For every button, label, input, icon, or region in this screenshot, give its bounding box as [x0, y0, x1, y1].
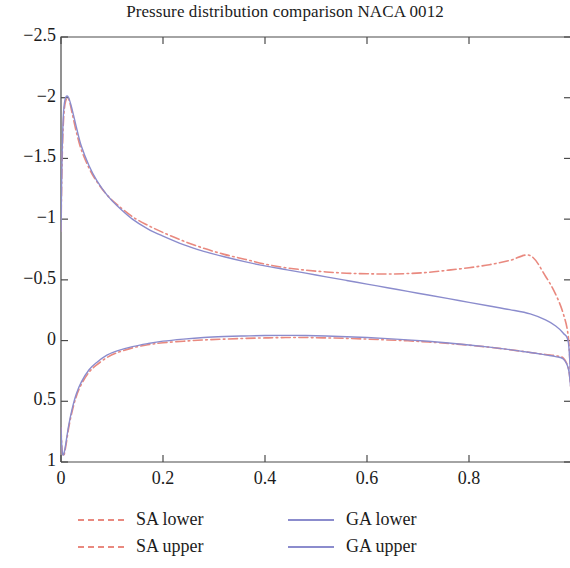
y-tick-label: −1.5 — [0, 146, 56, 167]
y-tick-label: −2.5 — [0, 25, 56, 46]
plot-axes — [61, 37, 570, 462]
chart-figure: Pressure distribution comparison NACA 00… — [0, 0, 570, 568]
legend-line-swatch — [78, 519, 124, 521]
legend-label: GA lower — [346, 506, 417, 533]
plot-series — [61, 96, 570, 456]
x-tick-label: 0.2 — [133, 468, 193, 489]
y-tick-label: −0.5 — [0, 268, 56, 289]
legend-label: GA upper — [346, 533, 417, 560]
x-tick-label: 0.8 — [439, 468, 499, 489]
x-tick-label: 0.6 — [337, 468, 397, 489]
y-tick-label: 0.5 — [0, 389, 56, 410]
y-tick-label: −1 — [0, 207, 56, 228]
series-line — [61, 98, 570, 387]
series-line — [61, 96, 570, 388]
legend-line-swatch — [78, 546, 124, 548]
y-tick-label: −2 — [0, 86, 56, 107]
legend-line-swatch — [288, 519, 334, 521]
series-line — [61, 337, 570, 455]
legend-line-swatch — [288, 546, 334, 548]
y-tick-label: 0 — [0, 329, 56, 350]
x-tick-label: 0 — [31, 468, 91, 489]
chart-legend: SA lowerSA upperGA lowerGA upper — [0, 506, 570, 568]
x-tick-label: 0.4 — [235, 468, 295, 489]
legend-label: SA upper — [136, 533, 204, 560]
legend-label: SA lower — [136, 506, 204, 533]
series-line — [61, 335, 570, 455]
